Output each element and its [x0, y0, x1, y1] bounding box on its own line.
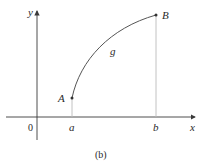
figure-caption: (b)	[95, 149, 107, 161]
tick-a-label: a	[69, 121, 75, 133]
x-axis-label: x	[189, 121, 195, 133]
origin-label: 0	[28, 122, 33, 133]
tick-b-label: b	[153, 121, 159, 133]
point-b-dot	[155, 14, 158, 17]
curve-g-label: g	[110, 45, 116, 57]
y-axis-label: y	[27, 6, 33, 18]
point-a-dot	[71, 97, 74, 100]
point-a-label: A	[57, 92, 65, 104]
point-b-label: B	[162, 9, 169, 21]
diagram: y x 0 A B a b g (b)	[0, 0, 204, 167]
